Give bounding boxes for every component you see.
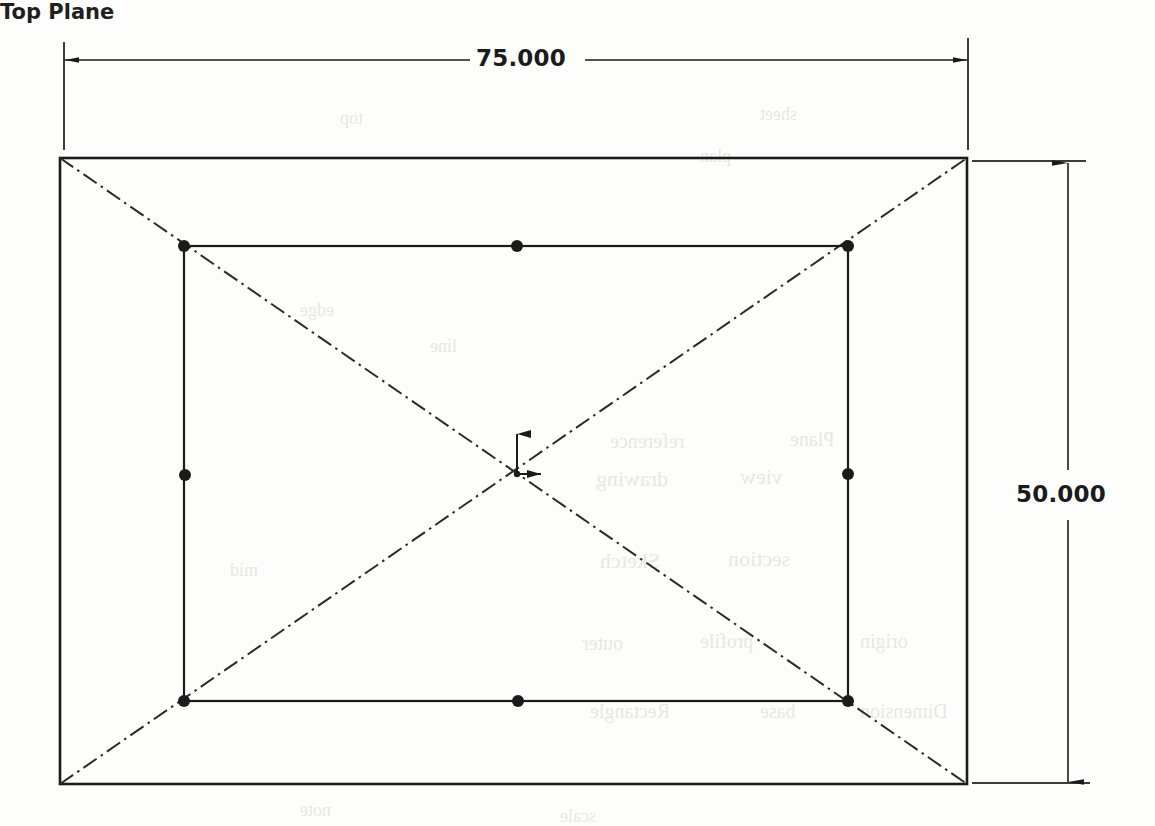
vertex-point-inner-left-mid[interactable]	[179, 469, 191, 481]
vertical-dimension-group	[972, 161, 1090, 783]
horizontal-dimension-value[interactable]: 75.000	[476, 45, 566, 71]
vertex-point-inner-top-mid[interactable]	[511, 240, 523, 252]
cad-sketch-svg	[0, 0, 1155, 826]
origin-point	[514, 471, 520, 477]
vertex-point-inner-bottom-left[interactable]	[178, 695, 190, 707]
vertex-point-inner-top-left[interactable]	[178, 240, 190, 252]
vertex-point-inner-bottom-right[interactable]	[842, 695, 854, 707]
vertex-point-inner-bottom-mid[interactable]	[512, 695, 524, 707]
vertex-point-inner-top-right[interactable]	[842, 240, 854, 252]
vertex-point-inner-right-mid[interactable]	[842, 468, 854, 480]
vertical-dimension-value[interactable]: 50.000	[1016, 481, 1106, 507]
drawing-canvas: referencePlanedrawingviewSketchsectionou…	[0, 0, 1155, 826]
